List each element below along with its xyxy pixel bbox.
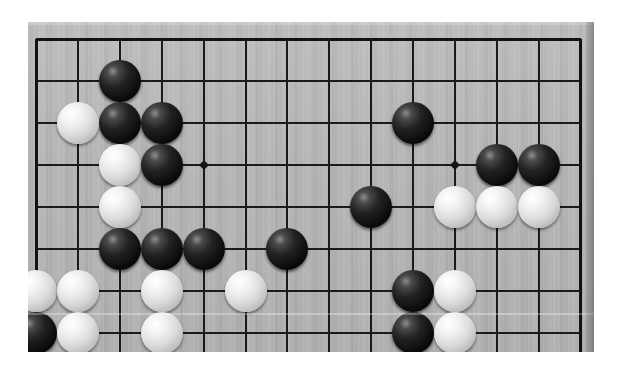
board-right-edge-shadow (586, 22, 594, 352)
grid-line-vertical (328, 39, 330, 352)
stone-white-c2r4[interactable] (99, 186, 141, 228)
stone-black-c8r4[interactable] (350, 186, 392, 228)
stone-white-c1r6[interactable] (57, 270, 99, 312)
stone-white-c0r6[interactable] (28, 270, 57, 312)
stone-black-c11r3[interactable] (476, 144, 518, 186)
stone-black-c9r2[interactable] (392, 102, 434, 144)
star-point-1 (450, 160, 460, 170)
stone-black-c2r5[interactable] (99, 228, 141, 270)
grid-line-horizontal (36, 332, 581, 334)
board-top-edge-highlight (28, 22, 594, 25)
stone-white-c3r7[interactable] (141, 312, 183, 352)
grid-line-horizontal (36, 290, 581, 292)
grid-line-vertical (286, 39, 288, 352)
stone-black-c12r3[interactable] (518, 144, 560, 186)
stone-white-c2r3[interactable] (99, 144, 141, 186)
go-board[interactable] (28, 22, 594, 352)
stone-white-c10r4[interactable] (434, 186, 476, 228)
grid-line-vertical (203, 39, 205, 352)
scan-streak-artifact (28, 313, 594, 315)
stone-white-c1r2[interactable] (57, 102, 99, 144)
stone-white-c1r7[interactable] (57, 312, 99, 352)
stone-black-c2r1[interactable] (99, 60, 141, 102)
grid-border-line-side (579, 39, 582, 352)
stone-white-c3r6[interactable] (141, 270, 183, 312)
stone-white-c12r4[interactable] (518, 186, 560, 228)
grid-border-line-top (36, 38, 581, 41)
stone-black-c0r7[interactable] (28, 312, 57, 352)
star-point-0 (199, 160, 209, 170)
stone-black-c9r7[interactable] (392, 312, 434, 352)
stone-black-c2r2[interactable] (99, 102, 141, 144)
stone-black-c3r3[interactable] (141, 144, 183, 186)
stone-black-c9r6[interactable] (392, 270, 434, 312)
stone-white-c10r7[interactable] (434, 312, 476, 352)
screenshot-root (0, 0, 633, 378)
stone-black-c3r2[interactable] (141, 102, 183, 144)
stone-white-c11r4[interactable] (476, 186, 518, 228)
stone-black-c4r5[interactable] (183, 228, 225, 270)
stone-white-c10r6[interactable] (434, 270, 476, 312)
stone-black-c3r5[interactable] (141, 228, 183, 270)
stone-black-c6r5[interactable] (266, 228, 308, 270)
stone-white-c5r6[interactable] (225, 270, 267, 312)
